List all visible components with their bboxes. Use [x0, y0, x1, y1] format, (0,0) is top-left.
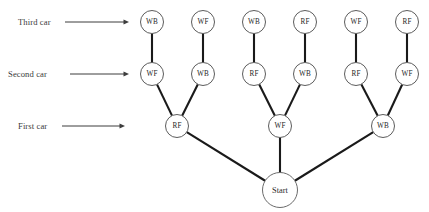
tree-edge — [259, 84, 275, 115]
stage-label-first-car: First car — [18, 121, 47, 131]
tree-node-l2-n3[interactable]: RF — [243, 63, 266, 86]
stage-labels-layer: Third carSecond carFirst car — [8, 17, 129, 131]
tree-node-l1-n3-label: WB — [377, 122, 389, 130]
tree-node-l3-n1[interactable]: WB — [141, 11, 164, 34]
tree-node-l3-n3[interactable]: WB — [243, 11, 266, 34]
tree-edge — [187, 132, 265, 181]
tree-node-l2-n6[interactable]: WF — [396, 63, 419, 86]
tree-node-l2-n1-label: WF — [146, 70, 157, 78]
stage-arrow-head-first-car — [120, 123, 126, 128]
tree-node-start[interactable]: Start — [263, 173, 298, 208]
tree-node-l3-n3-label: WB — [248, 18, 260, 26]
tree-edge — [388, 84, 402, 115]
tree-node-l2-n4-label: WB — [299, 70, 311, 78]
tree-node-l2-n4[interactable]: WB — [294, 63, 317, 86]
tree-node-l3-n6[interactable]: RF — [396, 11, 419, 34]
tree-node-l3-n1-label: WB — [146, 18, 158, 26]
tree-node-l1-n2[interactable]: WF — [269, 115, 292, 138]
tree-node-l1-n3[interactable]: WB — [372, 115, 395, 138]
tree-node-l2-n1[interactable]: WF — [141, 63, 164, 86]
tree-diagram-canvas: Third carSecond carFirst car RFWFWBWFWBR… — [0, 0, 429, 212]
tree-node-l3-n4-label: RF — [300, 18, 309, 26]
stage-label-third-car: Third car — [18, 17, 51, 27]
tree-edge — [295, 132, 373, 181]
tree-node-l2-n5[interactable]: RF — [345, 63, 368, 86]
tree-node-l2-n2[interactable]: WB — [192, 63, 215, 86]
tree-diagram: Third carSecond carFirst car RFWFWBWFWBR… — [0, 0, 429, 212]
tree-node-l3-n2-label: WF — [197, 18, 208, 26]
tree-node-l1-n1[interactable]: RF — [166, 115, 189, 138]
tree-node-l2-n2-label: WB — [197, 70, 209, 78]
tree-node-l1-n1-label: RF — [172, 122, 181, 130]
tree-node-l2-n6-label: WF — [401, 70, 412, 78]
tree-node-l2-n5-label: RF — [351, 70, 360, 78]
tree-edge — [361, 84, 377, 116]
tree-node-start-label: Start — [272, 186, 288, 195]
tree-node-l3-n5[interactable]: WF — [345, 11, 368, 34]
stage-arrow-head-third-car — [124, 19, 130, 24]
edges-layer — [152, 34, 407, 181]
tree-edge — [182, 84, 198, 115]
tree-edge — [285, 84, 300, 115]
tree-edge — [157, 84, 172, 115]
stage-label-second-car: Second car — [8, 69, 47, 79]
tree-node-l3-n4[interactable]: RF — [294, 11, 317, 34]
tree-node-l3-n2[interactable]: WF — [192, 11, 215, 34]
tree-node-l3-n6-label: RF — [402, 18, 411, 26]
nodes-layer: RFWFWBWFWBRFWBRFWFWBWFWBRFWFRFStart — [141, 11, 419, 208]
tree-node-l3-n5-label: WF — [350, 18, 361, 26]
tree-node-l1-n2-label: WF — [274, 122, 285, 130]
tree-node-l2-n3-label: RF — [249, 70, 258, 78]
stage-arrow-head-second-car — [124, 71, 130, 76]
